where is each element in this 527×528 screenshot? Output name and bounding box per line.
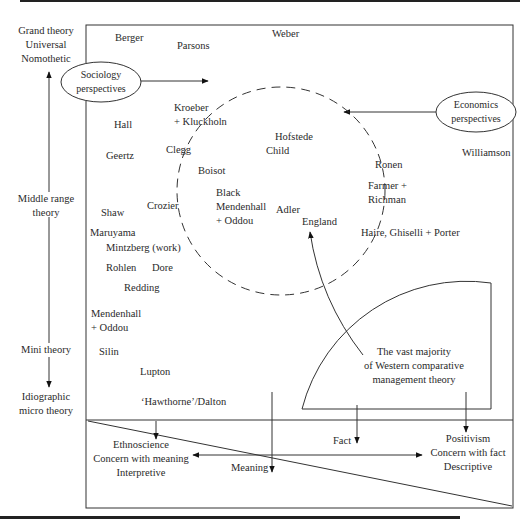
fact-label: Fact — [333, 434, 351, 448]
axis-idiographic: Idiographic micro theory — [0, 390, 92, 418]
black-line-1: Black — [216, 186, 266, 200]
economics-perspectives-label: Economics perspectives — [436, 98, 516, 126]
positivism-line-1: Positivism — [418, 432, 518, 446]
author-mintzberg: Mintzberg (work) — [106, 241, 181, 255]
farmer-line-1: Farmer + — [368, 179, 407, 193]
axis-top-line-3: Nomothetic — [0, 52, 92, 66]
axis-middle-line-1: Middle range — [0, 192, 92, 206]
author-silin: Silin — [99, 345, 119, 359]
ethnoscience-line-1: Ethnoscience — [88, 438, 194, 452]
author-weber: Weber — [272, 27, 299, 41]
callout-line-3: management theory — [344, 373, 484, 387]
positivism-line-2: Concern with fact — [418, 446, 518, 460]
author-rohlen: Rohlen — [106, 261, 136, 275]
sociology-perspectives-label: Sociology perspectives — [61, 68, 141, 96]
author-parsons: Parsons — [177, 39, 210, 53]
author-black-mendenhall-oddou: Black Mendenhall + Oddou — [216, 186, 266, 228]
author-geertz: Geertz — [106, 149, 134, 163]
axis-grand-theory: Grand theory Universal Nomothetic — [0, 24, 92, 66]
mendenhall-line-2: + Oddou — [91, 321, 141, 335]
author-boisot: Boisot — [198, 164, 225, 178]
author-hall: Hall — [114, 118, 132, 132]
author-child: Child — [266, 144, 289, 158]
author-ronen: Ronen — [375, 158, 402, 172]
callout-western-theory: The vast majority of Western comparative… — [344, 345, 484, 387]
ethnoscience-line-3: Interpretive — [88, 466, 194, 480]
author-shaw: Shaw — [101, 206, 124, 220]
bottom-rule — [0, 516, 460, 519]
axis-middle-range: Middle range theory — [0, 192, 92, 220]
ethnoscience-label: Ethnoscience Concern with meaning Interp… — [88, 438, 194, 480]
callout-line-2: of Western comparative — [344, 359, 484, 373]
axis-bottom-line-1: Idiographic — [0, 390, 92, 404]
author-maruyama: Maruyama — [90, 226, 135, 240]
axis-middle-line-2: theory — [0, 206, 92, 220]
ethnoscience-line-2: Concern with meaning — [88, 452, 194, 466]
sociology-line-2: perspectives — [61, 82, 141, 96]
author-kroeber-kluckholn: Kroeber + Kluckholn — [174, 101, 227, 129]
author-dore: Dore — [152, 261, 173, 275]
kroeber-line-1: Kroeber — [174, 101, 227, 115]
positivism-label: Positivism Concern with fact Descriptive — [418, 432, 518, 474]
axis-bottom-line-2: micro theory — [0, 404, 92, 418]
callout-arrow — [310, 232, 363, 355]
author-hawthorne-dalton: ‘Hawthorne’/Dalton — [141, 395, 226, 409]
author-redding: Redding — [124, 281, 160, 295]
black-line-3: + Oddou — [216, 214, 266, 228]
author-mendenhall-oddou: Mendenhall + Oddou — [91, 307, 141, 335]
author-berger: Berger — [115, 31, 143, 45]
author-williamson: Williamson — [462, 146, 511, 160]
mendenhall-line-1: Mendenhall — [91, 307, 141, 321]
axis-mini-theory: Mini theory — [0, 343, 92, 357]
author-england: England — [302, 215, 337, 229]
author-adler: Adler — [276, 203, 300, 217]
kroeber-line-2: + Kluckholn — [174, 115, 227, 129]
farmer-line-2: Richman — [368, 193, 407, 207]
economics-line-2: perspectives — [436, 112, 516, 126]
author-haire-ghiselli-porter: Haire, Ghiselli + Porter — [361, 226, 460, 240]
economics-line-1: Economics — [436, 98, 516, 112]
author-lupton: Lupton — [140, 365, 170, 379]
meaning-label: Meaning — [231, 461, 268, 475]
author-hofstede: Hofstede — [275, 130, 313, 144]
black-line-2: Mendenhall — [216, 200, 266, 214]
axis-top-line-1: Grand theory — [0, 24, 92, 38]
sociology-line-1: Sociology — [61, 68, 141, 82]
axis-top-line-2: Universal — [0, 38, 92, 52]
author-crozier: Crozier — [147, 199, 179, 213]
author-farmer-richman: Farmer + Richman — [368, 179, 407, 207]
callout-line-1: The vast majority — [344, 345, 484, 359]
author-clegg: Clegg — [166, 143, 191, 157]
positivism-line-3: Descriptive — [418, 460, 518, 474]
